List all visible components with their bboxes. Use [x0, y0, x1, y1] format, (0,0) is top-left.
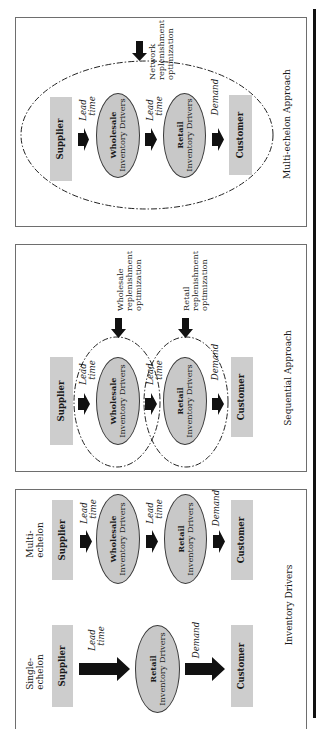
customer-label: Customer [237, 643, 246, 690]
supplier-label: Supplier [58, 646, 67, 687]
customer-label: Customer [237, 517, 246, 564]
multi-echelon-label: Multi-echelon [26, 522, 46, 558]
arrow-icon [80, 530, 92, 553]
supplier-label: Supplier [58, 520, 67, 561]
arrow-icon [185, 657, 225, 681]
demand-label: Demand [192, 622, 201, 658]
arrow-icon [146, 530, 158, 553]
lead-time-label: Leadtime [80, 499, 99, 526]
panel-caption: Inventory Drivers [285, 565, 295, 646]
single-echelon-label: Single-echelon [26, 654, 46, 690]
retail-inventory-drivers-label: RetailInventory Drivers [148, 632, 166, 705]
lead-time-label: Leadtime [146, 499, 165, 526]
arrow-icon [213, 530, 225, 553]
arrow-icon [79, 657, 130, 681]
lead-time-label: Leadtime [88, 626, 107, 653]
retail-inventory-drivers-label: RetailInventory Drivers [176, 502, 194, 575]
wholesale-inventory-drivers-label: WholesaleInventory Drivers [109, 502, 127, 575]
demand-label: Demand [212, 490, 221, 526]
